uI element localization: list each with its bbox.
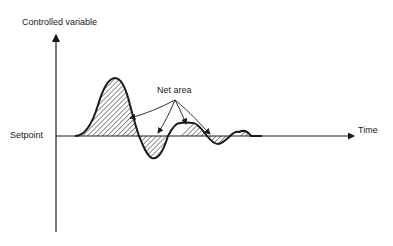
y-axis-label: Controlled variable bbox=[22, 17, 97, 27]
time-axis-label: Time bbox=[358, 125, 378, 135]
setpoint-label: Setpoint bbox=[10, 130, 43, 140]
response-diagram bbox=[0, 0, 393, 246]
net-area-label: Net area bbox=[157, 85, 192, 95]
